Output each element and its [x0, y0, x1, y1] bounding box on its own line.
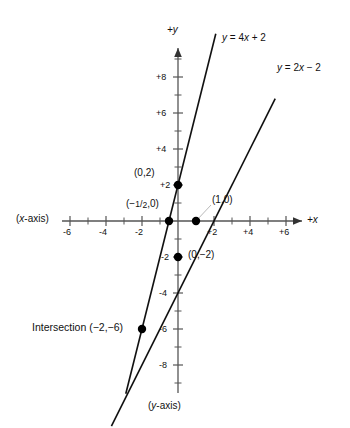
- x-axis-arrow-label: +x: [307, 215, 318, 225]
- x-tick-label-neg4: -4: [99, 228, 107, 237]
- x-tick-label-neg6: -6: [63, 228, 71, 237]
- point-1-0: [192, 217, 200, 225]
- x-axis-arrow: [293, 217, 302, 225]
- point-label-0-neg2: (0,−2): [188, 250, 214, 260]
- y-tick-label-neg8: -8: [159, 361, 167, 370]
- y-tick-label-pos4: +4: [156, 145, 166, 154]
- y-tick-label-pos8: +8: [156, 73, 166, 82]
- point-label-intersection: Intersection (−2,−6): [32, 322, 123, 333]
- line-y-equals-2x-minus-2: [111, 99, 275, 427]
- x-tick-label-neg2: -2: [135, 228, 143, 237]
- y-tick-label-pos6: +6: [156, 109, 166, 118]
- equation-label-line2: y = 2x − 2: [277, 63, 321, 73]
- y-axis-name-label: (y-axis): [148, 401, 181, 411]
- x-tick-label-pos6: +6: [279, 228, 289, 237]
- graph-figure: -6 -4 -2 +2 +4 +6 +8 +6 +4 +2 -2 -4 -6 -…: [0, 0, 350, 428]
- y-tick-label-pos2: +2: [160, 181, 170, 190]
- x-tick-label-pos2: +2: [207, 228, 217, 237]
- x-axis-name-label: (x-axis): [16, 214, 49, 224]
- point-0-2: [174, 181, 182, 189]
- point-label-0-2: (0,2): [134, 168, 155, 178]
- point-label-neg-half-0: (−1/2,0): [126, 199, 159, 210]
- y-axis-arrow: [174, 48, 182, 57]
- point-neg-half-0: [165, 217, 173, 225]
- equation-label-line1: y = 4x + 2: [222, 33, 266, 43]
- point-intersection: [138, 325, 146, 333]
- y-axis-arrow-label: +y: [167, 25, 178, 35]
- point-label-1-0: (1,0): [212, 195, 233, 205]
- x-axis-group: [62, 217, 302, 225]
- x-tick-label-pos4: +4: [243, 228, 253, 237]
- point-0-neg2: [174, 253, 182, 261]
- y-tick-label-neg6: -6: [159, 325, 167, 334]
- y-tick-label-neg4: -4: [159, 289, 167, 298]
- y-tick-label-neg2: -2: [161, 253, 169, 262]
